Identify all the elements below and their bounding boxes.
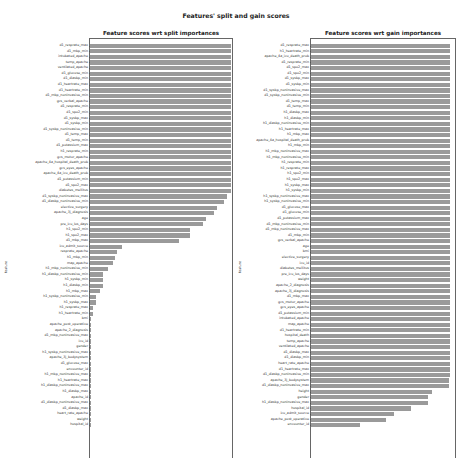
- bar: [311, 390, 432, 394]
- bar: [90, 245, 122, 249]
- bar: [90, 239, 179, 243]
- gain-plot-area: d1_resprate_maxh1_heartrate_minapache_4a…: [310, 38, 456, 458]
- bar: [90, 60, 231, 64]
- bar: [311, 423, 360, 427]
- bar: [90, 317, 91, 321]
- bar: [90, 312, 93, 316]
- bar: [90, 178, 231, 182]
- bar: [311, 66, 450, 70]
- figure-title: Features' split and gain scores: [0, 12, 472, 19]
- bar: [311, 77, 450, 81]
- bar: [90, 88, 231, 92]
- bar: [90, 66, 231, 70]
- bar: [311, 211, 450, 215]
- bar: [90, 49, 231, 53]
- bar: [90, 228, 190, 232]
- split-y-axis-label: feature: [4, 261, 8, 273]
- bar: [90, 150, 231, 154]
- bar: [90, 127, 231, 131]
- bar: [90, 211, 214, 215]
- bar: [311, 401, 428, 405]
- bar: [90, 206, 217, 210]
- bar-row: encounter_id: [311, 422, 455, 428]
- bar: [311, 44, 450, 48]
- bar: [311, 250, 450, 254]
- bar: [90, 139, 231, 143]
- bar: [90, 289, 100, 293]
- bar: [311, 206, 450, 210]
- bar: [311, 49, 450, 53]
- bar: [90, 284, 103, 288]
- split-chart-title: Feature scores wrt split importances: [89, 30, 233, 36]
- bar: [90, 155, 231, 159]
- bar: [311, 378, 449, 382]
- bar: [311, 189, 450, 193]
- bar: [90, 144, 231, 148]
- bar: [311, 139, 450, 143]
- bar: [311, 289, 450, 293]
- bar: [90, 323, 91, 327]
- bar: [90, 55, 231, 59]
- bar: [311, 295, 450, 299]
- bar: [311, 222, 450, 226]
- bar: [90, 222, 203, 226]
- bar: [311, 395, 428, 399]
- bar: [90, 77, 231, 81]
- bar: [90, 72, 231, 76]
- bar: [311, 284, 450, 288]
- bar: [311, 144, 450, 148]
- bar: [311, 228, 450, 232]
- bar: [311, 245, 450, 249]
- gain-chart-title: Feature scores wrt gain importances: [310, 30, 456, 36]
- bar: [90, 189, 231, 193]
- bar: [311, 217, 450, 221]
- bar: [311, 272, 450, 276]
- bar: [90, 161, 231, 165]
- bar: [90, 300, 96, 304]
- bar: [90, 111, 231, 115]
- bar: [311, 60, 450, 64]
- bar: [90, 295, 96, 299]
- bar: [311, 256, 450, 260]
- bar: [311, 312, 450, 316]
- bar: [90, 172, 231, 176]
- bar: [311, 150, 450, 154]
- bar: [90, 345, 91, 349]
- bar: [311, 172, 450, 176]
- bar: [311, 267, 450, 271]
- bar: [90, 200, 224, 204]
- bar: [311, 334, 450, 338]
- bar: [311, 99, 450, 103]
- bar: [90, 99, 231, 103]
- bar: [90, 339, 91, 343]
- bar: [90, 328, 91, 332]
- bar: [311, 345, 450, 349]
- bar: [90, 133, 231, 137]
- bar: [311, 406, 411, 410]
- bar: [311, 88, 450, 92]
- bar: [311, 351, 450, 355]
- bar: [311, 339, 450, 343]
- bar: [311, 178, 450, 182]
- bar: [311, 367, 450, 371]
- bar: [311, 233, 450, 237]
- bar: [311, 155, 450, 159]
- bar: [311, 72, 450, 76]
- bar: [311, 116, 450, 120]
- bar: [311, 83, 450, 87]
- bar: [311, 133, 450, 137]
- bar: [311, 306, 450, 310]
- split-plot-area: d1_resprate_maxd1_mbp_minintubated_apach…: [89, 38, 233, 458]
- bar: [311, 183, 450, 187]
- bar: [311, 239, 450, 243]
- bar: [311, 200, 450, 204]
- bar: [311, 105, 450, 109]
- bar: [90, 44, 231, 48]
- bar: [90, 217, 206, 221]
- bar: [311, 356, 450, 360]
- category-label: encounter_id: [288, 422, 309, 428]
- bar: [90, 94, 231, 98]
- bar: [311, 362, 450, 366]
- bar: [311, 278, 450, 282]
- gain-y-axis-label: feature: [238, 261, 242, 273]
